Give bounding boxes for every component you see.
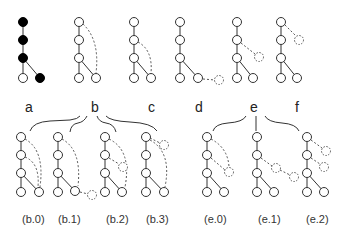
tree-e0 (203, 133, 234, 197)
tree-b0 (17, 133, 44, 197)
tree-e1 (253, 133, 299, 197)
tree-b1 (54, 133, 97, 200)
tree-top-5 (277, 18, 304, 83)
group-label-e: e (250, 100, 258, 114)
caption-b3: (b.3) (146, 214, 169, 225)
tree-diagram: .e { stroke:#333; stroke-width:1; fill:n… (0, 0, 351, 238)
braces (30, 116, 299, 132)
group-label-a: a (25, 100, 33, 114)
tree-top-0 (19, 18, 45, 83)
group-label-d: d (195, 100, 203, 114)
tree-e2 (303, 133, 331, 197)
group-label-c: c (148, 100, 155, 114)
caption-e2: (e.2) (306, 214, 329, 225)
caption-e1: (e.1) (258, 214, 281, 225)
tree-top-2 (130, 18, 156, 83)
group-label-b: b (91, 100, 99, 114)
tree-top-1 (75, 18, 101, 83)
caption-b2: (b.2) (106, 214, 129, 225)
tree-top-4 (233, 18, 264, 83)
tree-b2 (101, 133, 128, 197)
caption-b1: (b.1) (58, 214, 81, 225)
tree-b3 (142, 133, 169, 197)
caption-b0: (b.0) (22, 214, 45, 225)
group-label-f: f (295, 100, 299, 114)
tree-top-3 (176, 18, 224, 85)
caption-e0: (e.0) (204, 214, 227, 225)
